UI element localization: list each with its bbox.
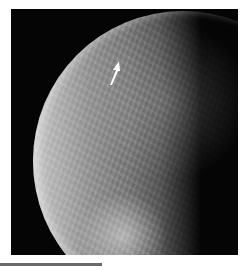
moon-limb-highlight [33, 11, 238, 255]
arrow-icon [108, 61, 120, 85]
horizontal-rule [0, 263, 102, 266]
photo-panel [11, 9, 238, 255]
